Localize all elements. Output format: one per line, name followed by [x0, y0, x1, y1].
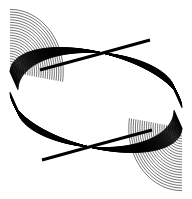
lower-right-sail: [10, 92, 182, 191]
harmonograph-figure: [0, 0, 192, 199]
line-art-drawing: [0, 0, 192, 199]
